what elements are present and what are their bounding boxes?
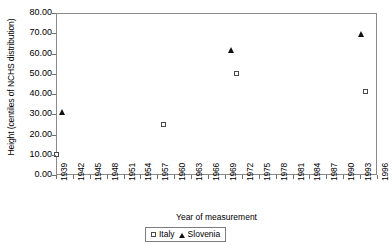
data-point-slovenia	[228, 47, 234, 53]
x-tick-mark	[326, 175, 327, 179]
x-tick-mark	[157, 175, 158, 179]
data-point-italy	[234, 71, 239, 76]
y-tick-label: 60.00	[6, 49, 52, 58]
y-tick-label: 40.00	[6, 89, 52, 98]
y-tick-mark	[52, 135, 56, 136]
y-tick-mark	[52, 13, 56, 14]
x-tick-mark	[208, 175, 209, 179]
x-tick-mark	[343, 175, 344, 179]
legend-label-slovenia: Slovenia	[188, 229, 221, 239]
y-tick-label: 80.00	[6, 8, 52, 17]
x-tick-mark	[377, 175, 378, 179]
x-tick-label: 1960	[178, 163, 187, 181]
x-tick-mark	[174, 175, 175, 179]
y-tick-mark	[52, 74, 56, 75]
x-tick-label: 1963	[195, 163, 204, 181]
x-tick-mark	[140, 175, 141, 179]
x-tick-label: 1948	[111, 163, 120, 181]
x-tick-mark	[309, 175, 310, 179]
data-point-italy	[363, 89, 368, 94]
x-tick-label: 1966	[212, 163, 221, 181]
y-tick-label: 30.00	[6, 109, 52, 118]
legend-entry-slovenia: Slovenia	[179, 229, 221, 239]
x-tick-label: 1984	[313, 163, 322, 181]
data-point-slovenia	[59, 109, 65, 115]
y-tick-mark	[52, 94, 56, 95]
x-tick-mark	[191, 175, 192, 179]
x-tick-label: 1981	[297, 163, 306, 181]
x-tick-label: 1990	[347, 163, 356, 181]
x-tick-label: 1942	[77, 163, 86, 181]
data-point-slovenia	[358, 31, 364, 37]
y-tick-label: 70.00	[6, 28, 52, 37]
open-square-icon	[151, 232, 156, 237]
x-tick-label: 1978	[280, 163, 289, 181]
chart-figure: Height (centiles of NCHS distribution) 0…	[0, 0, 392, 245]
x-tick-mark	[73, 175, 74, 179]
y-axis-tick-labels: 0.0010.0020.0030.0040.0050.0060.0070.008…	[4, 0, 52, 245]
x-tick-label: 1951	[128, 163, 137, 181]
x-tick-mark	[242, 175, 243, 179]
x-axis-title: Year of measurement	[56, 212, 377, 222]
x-tick-mark	[56, 175, 57, 179]
data-point-italy	[161, 122, 166, 127]
y-tick-mark	[52, 155, 56, 156]
y-tick-mark	[52, 33, 56, 34]
filled-triangle-icon	[179, 233, 185, 238]
plot-area	[56, 13, 377, 175]
x-tick-label: 1993	[364, 163, 373, 181]
x-tick-mark	[90, 175, 91, 179]
x-tick-label: 1975	[263, 163, 272, 181]
x-tick-mark	[293, 175, 294, 179]
legend-entry-italy: Italy	[151, 229, 175, 239]
y-tick-label: 50.00	[6, 69, 52, 78]
x-tick-label: 1969	[229, 163, 238, 181]
x-tick-label: 1972	[246, 163, 255, 181]
x-tick-mark	[360, 175, 361, 179]
x-tick-mark	[276, 175, 277, 179]
x-tick-label: 1957	[161, 163, 170, 181]
x-tick-mark	[107, 175, 108, 179]
y-tick-mark	[52, 54, 56, 55]
x-tick-label: 1954	[144, 163, 153, 181]
y-tick-label: 0.00	[6, 170, 52, 179]
x-tick-mark	[124, 175, 125, 179]
legend-label-italy: Italy	[159, 229, 175, 239]
y-tick-label: 10.00	[6, 150, 52, 159]
x-tick-mark	[225, 175, 226, 179]
x-tick-mark	[259, 175, 260, 179]
y-tick-mark	[52, 114, 56, 115]
chart-legend: Italy Slovenia	[145, 227, 226, 242]
x-tick-label: 1996	[381, 163, 390, 181]
y-tick-label: 20.00	[6, 130, 52, 139]
x-tick-label: 1939	[60, 163, 69, 181]
x-tick-label: 1945	[94, 163, 103, 181]
x-tick-label: 1987	[330, 163, 339, 181]
